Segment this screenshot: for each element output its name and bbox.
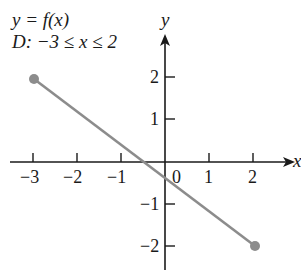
left-endpoint <box>29 74 39 84</box>
x-axis-label: x <box>292 150 301 171</box>
graph: x y −3 −2 −1 0 1 2 2 1 −1 −2 <box>0 0 301 274</box>
right-endpoint <box>250 241 260 251</box>
y-tick-label: −2 <box>140 236 159 256</box>
x-tick-label: −2 <box>63 167 82 187</box>
y-axis-label: y <box>159 9 170 30</box>
x-tick-label: 2 <box>248 167 257 187</box>
y-tick-label: 2 <box>150 67 159 87</box>
x-tick-label: 1 <box>204 167 213 187</box>
y-tick-label: −1 <box>140 194 159 214</box>
y-tick-label: 1 <box>150 109 159 129</box>
x-tick-label: −3 <box>20 167 39 187</box>
x-tick-label: −1 <box>107 167 126 187</box>
